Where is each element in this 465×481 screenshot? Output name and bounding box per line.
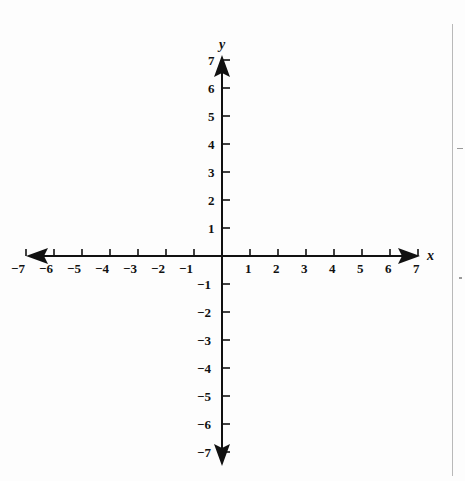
- y-tick-label--2: −2: [197, 306, 211, 319]
- y-tick-label-1: 1: [208, 222, 215, 235]
- x-tick-label--5: −5: [67, 262, 81, 275]
- y-tick-label--7: −7: [197, 446, 211, 459]
- x-tick-label-2: 2: [273, 262, 280, 275]
- x-tick-label--7: −7: [11, 262, 25, 275]
- y-tick-label-4: 4: [208, 138, 215, 151]
- y-tick-label--1: −1: [197, 278, 211, 291]
- x-tick-label-6: 6: [385, 262, 392, 275]
- y-tick-label--3: −3: [197, 334, 211, 347]
- y-tick-label--5: −5: [197, 390, 211, 403]
- x-tick-label--2: −2: [151, 262, 165, 275]
- y-tick-label-5: 5: [208, 110, 215, 123]
- x-tick-label--1: −1: [179, 262, 193, 275]
- x-tick-label--6: −6: [39, 262, 53, 275]
- y-axis-label: y: [219, 38, 225, 52]
- x-tick-label--3: −3: [123, 262, 137, 275]
- coordinate-plane-figure: −7−6−5−4−3−2−112345677654321−1−2−3−4−5−6…: [0, 0, 465, 481]
- x-axis-label: x: [427, 249, 434, 263]
- y-tick-label-2: 2: [208, 194, 215, 207]
- axes-svg: [0, 0, 465, 481]
- page-edge-rule: [452, 24, 453, 476]
- y-tick-label--4: −4: [197, 362, 211, 375]
- x-tick-label-5: 5: [357, 262, 364, 275]
- page-edge-mark-1: [459, 277, 462, 279]
- y-tick-label-3: 3: [208, 166, 215, 179]
- y-tick-label-6: 6: [208, 82, 215, 95]
- y-tick-label-7: 7: [208, 54, 215, 67]
- page-edge-mark-0: [457, 148, 463, 149]
- x-tick-label-7: 7: [413, 262, 420, 275]
- x-tick-label-1: 1: [245, 262, 252, 275]
- x-tick-label--4: −4: [95, 262, 109, 275]
- y-tick-label--6: −6: [197, 418, 211, 431]
- x-tick-label-3: 3: [301, 262, 308, 275]
- x-tick-label-4: 4: [329, 262, 336, 275]
